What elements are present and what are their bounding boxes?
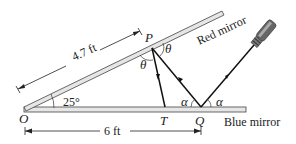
label-alpha-left: α bbox=[181, 95, 188, 108]
blue-mirror bbox=[24, 107, 246, 112]
flashlight-icon bbox=[250, 19, 277, 48]
label-q: Q bbox=[195, 114, 204, 127]
label-dist-oq: 6 ft bbox=[104, 125, 120, 137]
label-blue-mirror: Blue mirror bbox=[224, 116, 280, 128]
label-t: T bbox=[160, 114, 167, 127]
red-mirror bbox=[24, 11, 224, 111]
label-alpha-right: α bbox=[216, 95, 223, 108]
label-angle-25: 25° bbox=[63, 96, 80, 108]
label-theta-left: θ bbox=[140, 58, 146, 71]
label-p: P bbox=[145, 31, 153, 44]
label-theta-right: θ bbox=[165, 42, 171, 55]
label-o: O bbox=[19, 112, 28, 125]
